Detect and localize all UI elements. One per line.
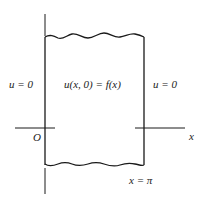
bottom-wavy-edge [45,163,144,167]
right-edge-label: x = π [129,175,152,186]
origin-label: O [33,132,41,143]
right-boundary-text: u = 0 [153,78,177,90]
initial-condition-text: u(x, 0) = f(x) [64,78,121,90]
right-boundary-label: u = 0 [153,79,177,90]
top-wavy-edge [45,33,144,38]
x-axis-label: x [189,131,194,142]
left-boundary-label: u = 0 [9,79,33,90]
initial-condition-label: u(x, 0) = f(x) [64,79,121,90]
left-boundary-text: u = 0 [9,78,33,90]
strip-diagram [0,0,205,204]
